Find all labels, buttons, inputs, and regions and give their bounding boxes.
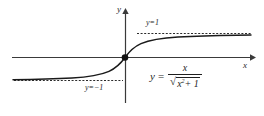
y-axis-arrowhead	[122, 8, 128, 14]
x-axis-arrowhead	[250, 54, 256, 60]
asymptote-label-y-equals-minus-1: y=−1	[85, 84, 103, 92]
formula-fraction: x √ x2+ 1	[168, 63, 202, 89]
asymptote-label-y-equals-1: y=1	[146, 19, 159, 27]
function-formula: y = x √ x2+ 1	[150, 63, 202, 89]
formula-numerator: x	[179, 63, 191, 74]
formula-lhs: y	[150, 70, 155, 82]
plot-svg	[0, 0, 264, 116]
radicand-tail: + 1	[185, 78, 199, 89]
y-axis-label: y	[117, 5, 121, 14]
radicand: x2+ 1	[176, 77, 200, 89]
x-axis-label: x	[243, 61, 247, 70]
formula-denominator: √ x2+ 1	[168, 75, 202, 89]
formula-equals: =	[158, 70, 164, 82]
figure-canvas: y x y=1 y=−1 y = x √ x2+ 1	[0, 0, 264, 116]
origin-dot	[122, 54, 129, 61]
